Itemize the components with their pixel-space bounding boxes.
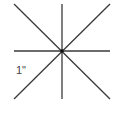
center-point (60, 49, 64, 53)
measurement-label: 1" (16, 64, 26, 76)
star-burst-diagram (0, 0, 120, 120)
